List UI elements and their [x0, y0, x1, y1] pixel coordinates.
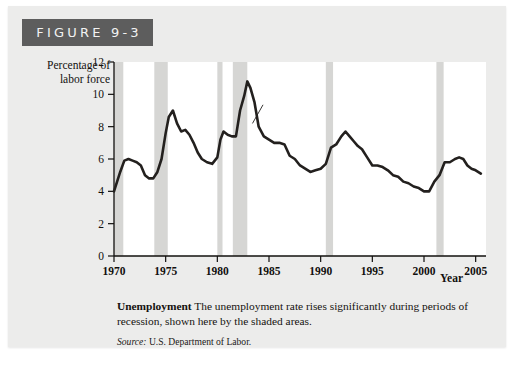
- x-axis-tick-label: 2000: [413, 265, 436, 277]
- x-axis-ticks-group: 19701975198019851990199520002005: [103, 256, 488, 277]
- recession-band: [217, 62, 222, 256]
- source-label: Source:: [117, 336, 146, 347]
- chart-container: Percentage of labor force Year Unemploym…: [22, 56, 492, 288]
- source-text: U.S. Department of Labor.: [146, 336, 251, 347]
- recession-band: [114, 62, 123, 256]
- x-axis-tick-label: 1980: [206, 265, 229, 277]
- x-axis-tick-label: 1990: [309, 265, 332, 277]
- y-axis-ticks-group: 024681012: [93, 56, 115, 262]
- x-axis-tick-label: 1995: [361, 265, 384, 277]
- figure-page: FIGURE 9-3 Percentage of labor force Yea…: [0, 0, 522, 381]
- x-axis-tick-label: 1975: [154, 265, 177, 277]
- x-axis-tick-label: 1985: [258, 265, 281, 277]
- caption-block: Unemployment The unemployment rate rises…: [117, 299, 487, 347]
- y-axis-tick-label: 2: [98, 218, 104, 230]
- x-axis-tick-label: 2005: [464, 265, 487, 277]
- x-axis-tick-label: 1970: [103, 265, 126, 277]
- y-axis-tick-label: 4: [98, 185, 104, 197]
- plot-background-group: [114, 62, 486, 256]
- y-axis-tick-label: 8: [98, 121, 104, 133]
- figure-number-badge: FIGURE 9-3: [22, 19, 153, 46]
- y-axis-tick-label: 0: [98, 250, 104, 262]
- unemployment-line-chart: 024681012 197019751980198519901995200020…: [22, 56, 492, 288]
- y-axis-tick-label: 6: [98, 153, 104, 165]
- y-axis-tick-label: 12: [93, 56, 105, 68]
- caption-text: Unemployment The unemployment rate rises…: [117, 299, 487, 328]
- y-axis-tick-label: 10: [93, 88, 105, 100]
- source-line: Source: U.S. Department of Labor.: [117, 336, 487, 347]
- figure-number-label: FIGURE 9-3: [33, 25, 142, 40]
- recession-band: [436, 62, 443, 256]
- plot-background: [114, 62, 486, 256]
- caption-title: Unemployment: [117, 300, 192, 312]
